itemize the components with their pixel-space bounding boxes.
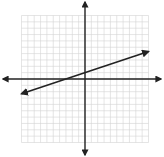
axes	[3, 2, 161, 155]
coordinate-plane	[0, 0, 164, 157]
